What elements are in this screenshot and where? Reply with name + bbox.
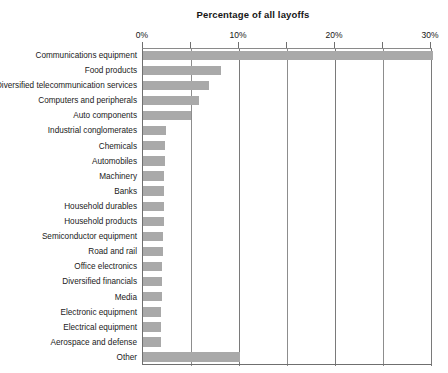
bar — [143, 322, 161, 331]
category-label: Chemicals — [99, 139, 137, 154]
category-label: Household products — [64, 214, 137, 229]
x-tick-label: 30% — [421, 30, 438, 40]
category-label: Automobiles — [92, 154, 137, 169]
bar-row: Semiconductor equipment — [0, 229, 448, 244]
bar — [143, 217, 164, 226]
category-label: Diversified telecommunication services — [0, 78, 137, 93]
category-label: Industrial conglomerates — [48, 123, 137, 138]
bar — [143, 96, 199, 105]
bar-row: Electrical equipment — [0, 320, 448, 335]
bar — [143, 292, 162, 301]
bar-row: Automobiles — [0, 154, 448, 169]
chart-title: Percentage of all layoffs — [58, 9, 448, 20]
category-label: Banks — [114, 184, 137, 199]
category-label: Auto components — [73, 108, 137, 123]
bar — [143, 51, 433, 60]
bar — [143, 337, 161, 346]
bar — [143, 352, 240, 361]
category-label: Household durables — [64, 199, 137, 214]
bar — [143, 156, 165, 165]
category-label: Diversified financials — [62, 274, 137, 289]
bar-row: Chemicals — [0, 139, 448, 154]
bar-row: Other — [0, 350, 448, 365]
bar-row: Electronic equipment — [0, 305, 448, 320]
category-label: Communications equipment — [36, 48, 137, 63]
category-label: Road and rail — [88, 244, 137, 259]
x-tick-label: 0% — [136, 30, 148, 40]
category-label: Office electronics — [74, 259, 137, 274]
bar-row: Aerospace and defense — [0, 335, 448, 350]
bar-row: Road and rail — [0, 244, 448, 259]
bar — [143, 126, 166, 135]
bar — [143, 307, 161, 316]
bar-row: Household products — [0, 214, 448, 229]
bar-row: Office electronics — [0, 259, 448, 274]
category-label: Machinery — [99, 169, 137, 184]
bar-row: Machinery — [0, 169, 448, 184]
bar — [143, 277, 162, 286]
bar-row: Auto components — [0, 108, 448, 123]
x-tick-label: 10% — [229, 30, 246, 40]
bar-row: Food products — [0, 63, 448, 78]
bar — [143, 81, 209, 90]
bar-rows: Communications equipmentFood productsDiv… — [0, 48, 448, 365]
layoffs-bar-chart: Percentage of all layoffs 0%10%20%30% Co… — [0, 0, 448, 373]
category-label: Media — [115, 290, 137, 305]
category-label: Electrical equipment — [63, 320, 137, 335]
bar — [143, 111, 191, 120]
bar-row: Household durables — [0, 199, 448, 214]
bar — [143, 247, 163, 256]
bar-row: Media — [0, 290, 448, 305]
bar — [143, 202, 164, 211]
category-label: Aerospace and defense — [51, 335, 138, 350]
bar — [143, 262, 162, 271]
bar — [143, 186, 164, 195]
category-label: Computers and peripherals — [38, 93, 137, 108]
bar — [143, 141, 165, 150]
bar-row: Diversified financials — [0, 274, 448, 289]
bar — [143, 232, 163, 241]
bar-row: Industrial conglomerates — [0, 123, 448, 138]
bar-row: Banks — [0, 184, 448, 199]
bar — [143, 171, 164, 180]
x-tick-label: 20% — [325, 30, 342, 40]
bar — [143, 66, 221, 75]
category-label: Food products — [85, 63, 137, 78]
category-label: Electronic equipment — [61, 305, 137, 320]
bar-row: Diversified telecommunication services — [0, 78, 448, 93]
bar-row: Communications equipment — [0, 48, 448, 63]
bar-row: Computers and peripherals — [0, 93, 448, 108]
category-label: Semiconductor equipment — [42, 229, 137, 244]
category-label: Other — [117, 350, 137, 365]
